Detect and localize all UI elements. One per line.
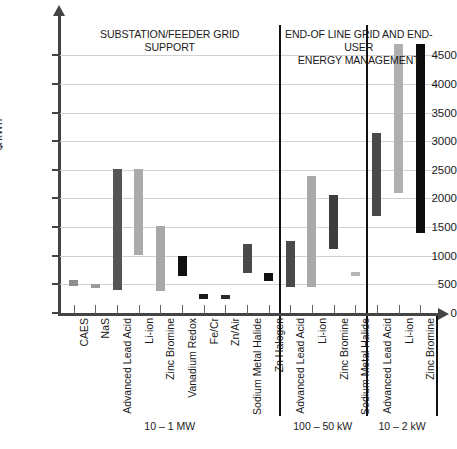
- x-axis-tick-mark: [204, 305, 205, 314]
- y-axis-tick-mark: [52, 283, 59, 285]
- x-axis-category-label: Li-ion: [316, 318, 328, 344]
- group-label-3: 10 – 2 kW: [366, 420, 438, 432]
- bar: [113, 169, 122, 290]
- bar: [286, 241, 295, 287]
- bar: [199, 294, 208, 299]
- bar: [221, 295, 230, 298]
- x-axis-tick-mark: [160, 305, 161, 314]
- x-axis-tick-mark: [117, 305, 118, 314]
- x-axis-category-label: Fe/Cr: [208, 318, 220, 344]
- x-axis-category-label: Zinc Bromine: [338, 318, 350, 380]
- x-axis-category-label: Zn/Air: [229, 318, 241, 346]
- x-axis-category-label: Li-ion: [143, 318, 155, 344]
- y-axis-line: [58, 14, 61, 315]
- section-title-right: END-OF LINE GRID AND END-USER ENERGY MAN…: [279, 28, 438, 67]
- bar: [416, 44, 425, 233]
- x-axis-tick-mark: [377, 305, 378, 314]
- chart-container: $/kWh 0500100015002000250030003500400045…: [0, 0, 457, 449]
- y-axis-tick-label: 4000: [405, 78, 457, 90]
- section-separator-bottom: [366, 316, 368, 416]
- x-axis-tick-mark: [182, 305, 183, 314]
- bar: [243, 244, 252, 273]
- bar: [69, 280, 78, 286]
- x-axis-tick-mark: [312, 305, 313, 314]
- gridline: [60, 113, 438, 114]
- y-axis-tick-label: 2000: [405, 192, 457, 204]
- x-axis-category-label: NaS: [99, 318, 111, 338]
- section-separator-bottom: [279, 316, 281, 416]
- y-axis-tick-mark: [52, 255, 59, 257]
- x-axis-line: [58, 313, 440, 316]
- x-axis-tick-mark: [420, 305, 421, 314]
- x-axis-tick-mark: [290, 305, 291, 314]
- x-axis-tick-mark: [355, 305, 356, 314]
- bar: [264, 273, 273, 281]
- bar: [178, 256, 187, 276]
- x-axis-tick-mark: [139, 305, 140, 314]
- y-axis-tick-mark: [52, 197, 59, 199]
- section-title-left: SUBSTATION/FEEDER GRID SUPPORT: [60, 28, 279, 54]
- y-axis-tick-label: 1500: [405, 221, 457, 233]
- x-axis-tick-mark: [247, 305, 248, 314]
- x-axis-category-label: Advanced Lead Acid: [121, 318, 133, 414]
- y-axis-tick-mark: [52, 83, 59, 85]
- y-axis-tick-mark: [52, 226, 59, 228]
- x-axis-tick-mark: [225, 305, 226, 314]
- y-axis-tick-label: 500: [405, 278, 457, 290]
- x-axis-category-label: Advanced Lead Acid: [381, 318, 393, 414]
- section-title-left-line1: SUBSTATION/FEEDER GRID: [60, 28, 279, 41]
- y-axis-tick-label: 2500: [405, 164, 457, 176]
- bar: [134, 169, 143, 254]
- section-separator: [279, 25, 281, 313]
- y-axis-tick-mark: [52, 169, 59, 171]
- y-axis-tick-mark: [52, 312, 59, 314]
- x-axis-category-label: Vanadium Redox: [186, 318, 198, 398]
- section-title-right-line1: END-OF LINE GRID AND END-USER: [279, 28, 438, 54]
- bar: [156, 226, 165, 291]
- x-axis-tick-mark: [334, 305, 335, 314]
- x-axis-category-label: Zinc Bromine: [164, 318, 176, 380]
- bar: [307, 176, 316, 288]
- section-title-right-line2: ENERGY MANAGEMENT: [279, 54, 438, 67]
- y-axis-title: $/kWh: [0, 119, 4, 150]
- bar: [329, 195, 338, 249]
- y-axis-tick-mark: [52, 112, 59, 114]
- group-label-2: 100 – 50 kW: [279, 420, 366, 432]
- x-axis-category-label: Zinc Bromine: [424, 318, 436, 380]
- y-axis-tick-label: 3000: [405, 135, 457, 147]
- y-axis-tick-label: 3500: [405, 107, 457, 119]
- bar: [372, 133, 381, 216]
- bar: [351, 272, 360, 277]
- x-axis-category-label: Advanced Lead Acid: [294, 318, 306, 414]
- section-title-left-line2: SUPPORT: [60, 41, 279, 54]
- x-axis-tick-mark: [74, 305, 75, 314]
- section-separator: [366, 25, 368, 313]
- group-label-1: 10 – 1 MW: [60, 420, 279, 432]
- section-separator-right-edge: [436, 316, 438, 416]
- x-axis-tick-mark: [95, 305, 96, 314]
- x-axis-category-label: Sodium Metal Halide: [251, 318, 263, 415]
- y-axis-tick-label: 1000: [405, 250, 457, 262]
- x-axis-category-label: CAES: [78, 318, 90, 347]
- y-axis-tick-mark: [52, 140, 59, 142]
- bar: [91, 284, 100, 287]
- y-axis-tick-mark: [52, 54, 59, 56]
- x-axis-tick-mark: [269, 305, 270, 314]
- gridline: [60, 84, 438, 85]
- x-axis-tick-mark: [399, 305, 400, 314]
- x-axis-category-label: Li-ion: [403, 318, 415, 344]
